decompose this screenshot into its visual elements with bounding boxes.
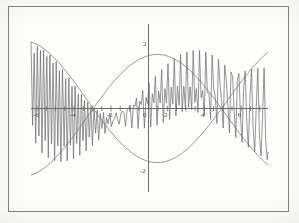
x-tick-label-neg2: -2 bbox=[107, 111, 113, 119]
x-tick-label-neg4: -4 bbox=[70, 111, 76, 119]
beat-waveform bbox=[31, 42, 268, 162]
x-tick-label-4: 4 bbox=[201, 111, 205, 119]
beat-wave-plot bbox=[0, 0, 299, 223]
x-tick-label-2: 2 bbox=[164, 111, 168, 119]
x-tick-label-0: 0 bbox=[143, 111, 147, 119]
figure-page: -6 -4 -2 0 2 4 6 2 -2 bbox=[0, 0, 299, 223]
x-tick-label-6: 6 bbox=[238, 111, 242, 119]
x-tick-label-neg6: -6 bbox=[33, 111, 39, 119]
y-tick-label-neg2: -2 bbox=[140, 167, 146, 175]
y-tick-label-2: 2 bbox=[143, 40, 147, 48]
